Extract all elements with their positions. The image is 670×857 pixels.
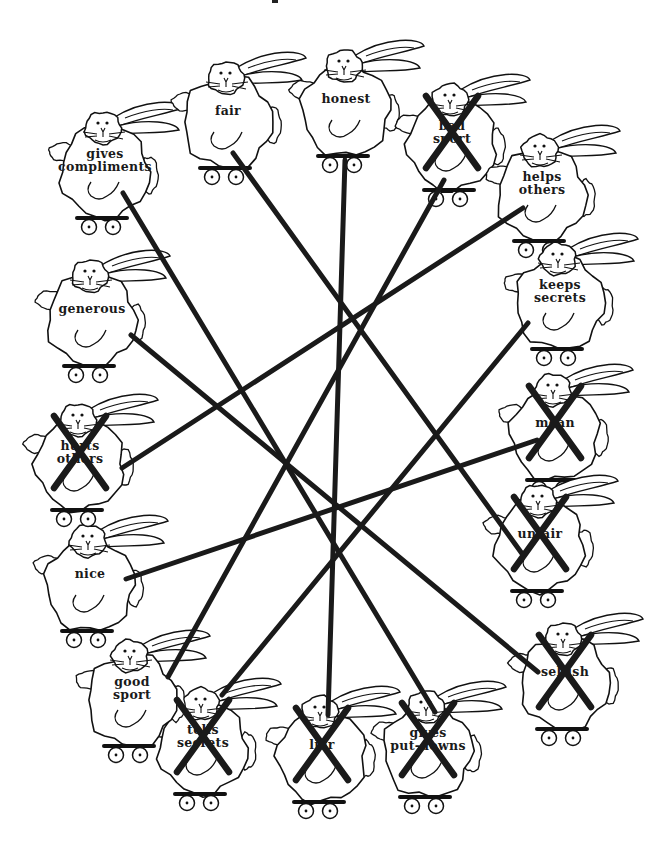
trait-label-bad-sport: badsport	[433, 119, 471, 145]
trait-label-line: unfair	[518, 527, 563, 540]
trait-label-line: honest	[321, 92, 370, 105]
trait-label-line: sport	[433, 132, 471, 145]
bunny-honest	[289, 40, 424, 172]
match-line-helps-others-to-hurts-others	[122, 208, 523, 468]
trait-label-mean: mean	[535, 416, 575, 429]
trait-label-line: put-downs	[390, 739, 465, 752]
worksheet-canvas: givescomplimentsfairhonestbadsporthelpso…	[0, 0, 670, 857]
match-line-honest-to-liar	[328, 160, 345, 715]
trait-label-gives-put-downs: givesput-downs	[390, 726, 465, 752]
trait-label-good-sport: goodsport	[113, 675, 151, 701]
bunny-generous	[35, 250, 170, 382]
trait-label-line: selfish	[541, 665, 589, 678]
trait-label-hurts-others: hurtsothers	[57, 439, 104, 465]
trait-label-selfish: selfish	[541, 665, 589, 678]
trait-label-line: mean	[535, 416, 575, 429]
trait-label-line: secrets	[177, 736, 229, 749]
trait-label-line: nice	[75, 567, 106, 580]
trait-label-unfair: unfair	[518, 527, 563, 540]
trait-label-honest: honest	[321, 92, 370, 105]
trait-label-line: liar	[309, 738, 334, 751]
bunny-selfish	[508, 613, 643, 745]
trait-label-gives-compliments: givescompliments	[58, 147, 152, 173]
trait-label-fair: fair	[215, 104, 241, 117]
trait-label-keeps-secrets: keepssecrets	[534, 278, 586, 304]
trait-label-helps-others: helpsothers	[519, 170, 566, 196]
trait-label-line: others	[57, 452, 104, 465]
bunny-nice	[33, 515, 168, 647]
trait-label-tells-secrets: tellssecrets	[177, 723, 229, 749]
bunny-unfair	[483, 475, 618, 607]
trait-label-line: sport	[113, 688, 151, 701]
trait-label-line: secrets	[534, 291, 586, 304]
trait-label-line: fair	[215, 104, 241, 117]
trait-label-generous: generous	[58, 302, 125, 315]
trait-label-line: compliments	[58, 160, 152, 173]
trait-label-line: others	[519, 183, 566, 196]
trait-label-liar: liar	[309, 738, 334, 751]
trait-label-line: generous	[58, 302, 125, 315]
match-line-keeps-secrets-to-tells-secrets	[222, 323, 528, 695]
trait-label-nice: nice	[75, 567, 106, 580]
bunny-liar	[266, 686, 400, 818]
